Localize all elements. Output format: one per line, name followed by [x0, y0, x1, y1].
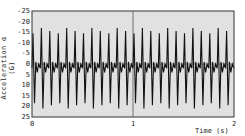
- plot-area: [0, 0, 245, 136]
